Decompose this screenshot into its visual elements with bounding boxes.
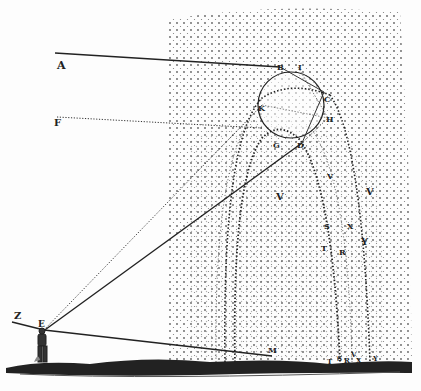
- point-label-a: A: [57, 60, 66, 71]
- point-label-rg: R: [344, 357, 350, 364]
- observer-figure: [34, 328, 47, 362]
- point-label-y: Y: [361, 237, 368, 247]
- point-label-v2: V: [276, 192, 284, 202]
- point-label-x: X: [347, 222, 353, 230]
- point-label-r: R: [339, 248, 346, 256]
- point-label-sg: S: [337, 355, 342, 362]
- point-label-f: F: [54, 118, 61, 128]
- point-label-i: I: [298, 63, 302, 71]
- point-label-b: B: [277, 63, 284, 71]
- point-label-v1: V: [327, 172, 333, 180]
- point-label-tg: T: [327, 358, 332, 365]
- point-label-yg: Y: [373, 355, 378, 362]
- point-label-z: Z: [14, 311, 21, 321]
- point-label-c: C: [324, 95, 330, 103]
- point-label-h: H: [326, 115, 334, 123]
- point-label-xg: X: [356, 357, 361, 364]
- rain-stipple-dense: [190, 116, 385, 360]
- point-label-e: E: [38, 320, 45, 329]
- point-label-d: D: [297, 141, 304, 149]
- point-label-m: M: [268, 346, 277, 354]
- point-label-s: S: [324, 222, 330, 230]
- point-label-g: G: [273, 141, 280, 149]
- point-label-t: T: [321, 244, 327, 252]
- point-label-v3: V: [366, 187, 374, 197]
- rainbow-diagram: AFBICKHGDVVVSXTRYZEMTSRVXY: [0, 0, 421, 391]
- point-label-k: K: [258, 104, 265, 112]
